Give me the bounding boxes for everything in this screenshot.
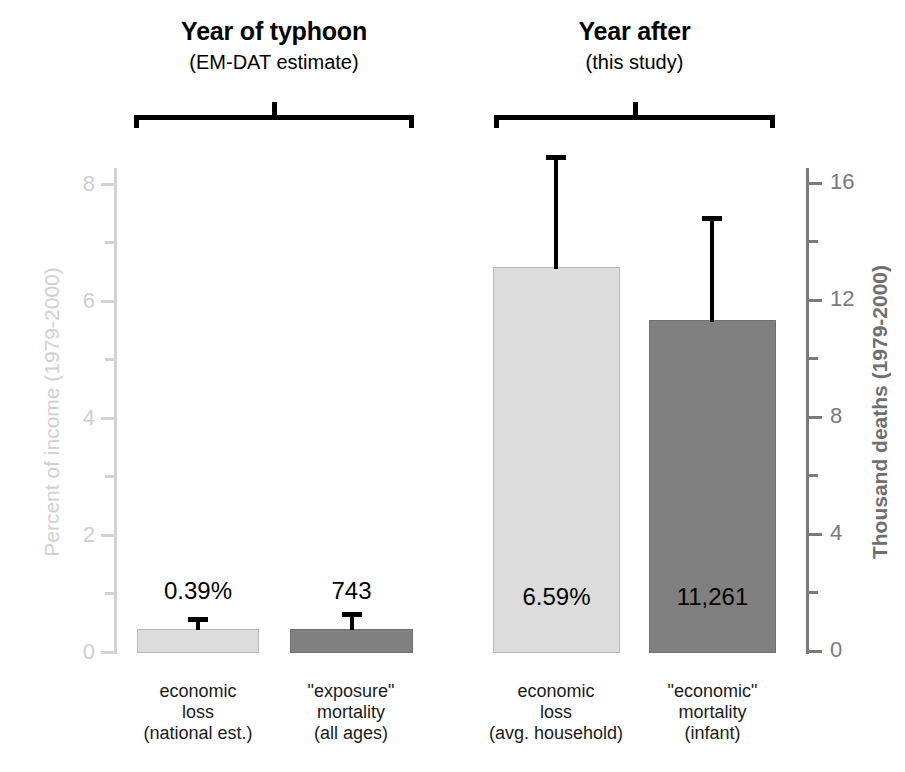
right-tick-14	[809, 240, 818, 243]
value-label-bar-2: 743	[290, 579, 413, 603]
right-ticklabel-8: 8	[830, 405, 842, 427]
left-ticklabel-6: 6	[83, 290, 95, 312]
right-ticklabel-4: 4	[830, 522, 842, 544]
errorbar-stem	[554, 155, 558, 269]
left-ticklabel-4: 4	[83, 407, 95, 429]
bar-economic-loss-national[interactable]	[137, 629, 259, 653]
right-tick-4	[809, 533, 822, 536]
bracket-stem	[633, 102, 638, 116]
errorbar-stem	[710, 216, 714, 322]
errorbar-exposure-mortality	[322, 612, 382, 630]
right-ticklabel-0: 0	[830, 639, 842, 661]
right-tick-12	[809, 299, 822, 302]
left-y-axis: 8 6 4 2 0	[77, 168, 117, 654]
left-ticklabel-8: 8	[83, 173, 95, 195]
group-title-1: Year of typhoon	[134, 18, 414, 44]
errorbar-cap	[188, 617, 208, 622]
category-label-4: "economic" mortality (infant)	[640, 681, 785, 745]
errorbar-cap	[342, 612, 362, 617]
left-ticklabel-2: 2	[83, 524, 95, 546]
group-bracket-2	[494, 102, 775, 128]
right-ticklabel-12: 12	[830, 288, 854, 310]
right-tick-16	[809, 182, 822, 185]
right-tick-0	[809, 650, 822, 653]
errorbar-cap	[702, 216, 722, 221]
bar-exposure-mortality[interactable]	[290, 629, 413, 653]
left-tick-7	[105, 241, 114, 244]
group-subtitle-2: (this study)	[494, 52, 775, 73]
group-subtitle-1: (EM-DAT estimate)	[134, 52, 414, 73]
left-tick-3	[105, 475, 114, 478]
right-tick-8	[809, 416, 822, 419]
category-label-3: economic loss (avg. household)	[481, 681, 631, 745]
right-axis-title: Thousand deaths (1979-2000)	[868, 232, 892, 592]
left-tick-6	[101, 300, 114, 303]
errorbar-cap	[546, 155, 566, 160]
left-tick-0	[101, 651, 114, 654]
left-tick-2	[101, 534, 114, 537]
right-y-axis: 16 12 8 4 0	[806, 168, 846, 654]
left-tick-8	[101, 183, 114, 186]
bracket-stem	[272, 102, 277, 116]
right-tick-2	[809, 591, 818, 594]
category-label-1: economic loss (national est.)	[128, 681, 268, 745]
left-tick-1	[105, 592, 114, 595]
bracket-left-end	[494, 115, 499, 128]
bracket-left-end	[134, 115, 139, 128]
bracket-bar	[134, 115, 414, 120]
left-ticklabel-0: 0	[83, 641, 95, 663]
value-label-bar-1: 0.39%	[137, 579, 259, 603]
value-label-bar-3: 6.59%	[493, 585, 620, 609]
right-ticklabel-16: 16	[830, 171, 854, 193]
bracket-bar	[494, 115, 775, 120]
category-label-2: "exposure" mortality (all ages)	[281, 681, 421, 745]
value-label-bar-4: 11,261	[649, 585, 776, 609]
group-title-2: Year after	[494, 18, 775, 44]
chart-figure: Year of typhoon (EM-DAT estimate) Year a…	[0, 0, 905, 772]
group-bracket-1	[134, 102, 414, 128]
left-axis-spine	[114, 168, 117, 654]
right-tick-6	[809, 474, 818, 477]
left-tick-4	[101, 417, 114, 420]
left-tick-5	[105, 358, 114, 361]
errorbar-economic-loss-household	[526, 155, 586, 269]
errorbar-economic-loss-national	[168, 617, 228, 630]
right-tick-10	[809, 357, 818, 360]
bracket-right-end	[409, 115, 414, 128]
left-axis-title: Percent of income (1979-2000)	[40, 232, 64, 592]
errorbar-economic-mortality-infant	[682, 216, 742, 322]
bracket-right-end	[770, 115, 775, 128]
